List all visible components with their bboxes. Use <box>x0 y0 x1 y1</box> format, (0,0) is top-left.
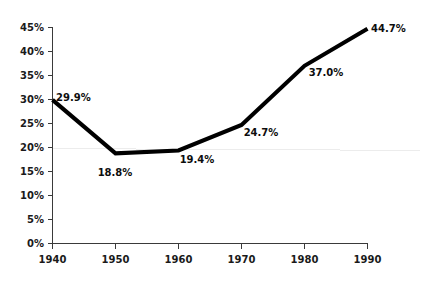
y-axis-label-5: 5% <box>27 214 44 225</box>
data-label-1980: 37.0% <box>309 67 344 78</box>
x-axis-label-1940: 1940 <box>39 254 67 265</box>
y-axis-label-15: 15% <box>20 166 44 177</box>
data-label-1950: 18.8% <box>98 167 133 178</box>
x-axis-label-1950: 1950 <box>102 254 130 265</box>
y-axis-label-30: 30% <box>20 94 44 105</box>
y-axis-label-35: 35% <box>20 70 44 81</box>
data-label-1970: 24.7% <box>244 127 279 138</box>
data-label-1990: 44.7% <box>371 23 406 34</box>
data-label-1940: 29.9% <box>56 92 91 103</box>
chart-canvas: 45% 40% 35% 30% 25% 20% 15% 10% 5% 0% 19… <box>0 0 423 282</box>
x-axis-label-1960: 1960 <box>165 254 193 265</box>
x-axis-label-1970: 1970 <box>228 254 256 265</box>
x-axis-label-1980: 1980 <box>291 254 319 265</box>
y-axis-label-25: 25% <box>20 118 44 129</box>
y-axis-label-45: 45% <box>20 22 44 33</box>
data-label-1960: 19.4% <box>180 154 215 165</box>
y-axis-label-40: 40% <box>20 46 44 57</box>
y-axis-label-0: 0% <box>27 238 44 249</box>
chart-background <box>0 0 423 282</box>
y-axis-label-20: 20% <box>20 142 44 153</box>
x-axis-label-1990: 1990 <box>354 254 382 265</box>
y-axis-label-10: 10% <box>20 190 44 201</box>
line-chart: 45% 40% 35% 30% 25% 20% 15% 10% 5% 0% 19… <box>0 0 423 282</box>
